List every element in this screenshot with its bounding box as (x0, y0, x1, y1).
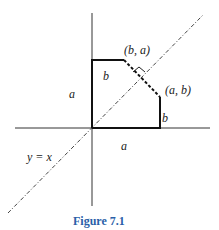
diagonal-line-y-equals-x (8, 15, 203, 213)
path-right-bottom (92, 97, 160, 128)
label-point-ba: (b, a) (124, 43, 150, 57)
label-bottom-side-a: a (121, 139, 127, 153)
label-point-ab: (a, b) (165, 83, 191, 97)
label-left-side-a: a (69, 87, 75, 101)
figure-diagram: (b, a) (a, b) a b b a y = x Figure 7.1 (0, 0, 219, 230)
label-right-side-b: b (162, 111, 168, 125)
label-top-side-b: b (103, 69, 109, 83)
label-diagonal: y = x (26, 150, 52, 164)
reflection-segment (124, 60, 160, 97)
figure-caption: Figure 7.1 (73, 214, 125, 228)
